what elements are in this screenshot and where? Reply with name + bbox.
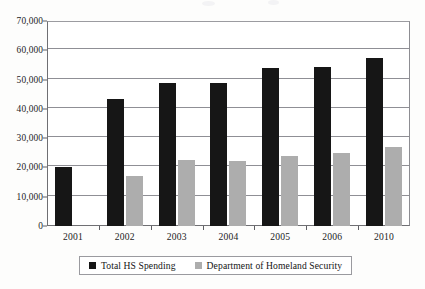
bar-2003-series2 [178, 160, 195, 226]
bar-2006-series1 [314, 67, 331, 226]
legend-swatch-icon-1 [89, 262, 96, 269]
x-tick-mark-5 [358, 226, 359, 230]
chart-figure: 010,00020,00030,00040,00050,00060,00070,… [0, 0, 425, 289]
y-tick-label-40000: 40,000 [0, 104, 43, 114]
y-tick-label-30000: 30,000 [0, 133, 43, 143]
bar-2004-series2 [229, 161, 246, 226]
bars-layer [47, 21, 410, 226]
bar-group-2010 [358, 21, 410, 226]
chart-legend: Total HS SpendingDepartment of Homeland … [79, 256, 352, 275]
y-tick-label-10000: 10,000 [0, 192, 43, 202]
bar-2003-series1 [159, 83, 176, 227]
bar-2010-series2 [385, 147, 402, 226]
bar-2005-series1 [262, 68, 279, 226]
x-tick-mark-1 [151, 226, 152, 230]
bar-group-2001 [47, 21, 99, 226]
bar-2001-series1 [55, 167, 72, 226]
y-tick-label-0: 0 [0, 221, 43, 231]
x-tick-mark-2 [203, 226, 204, 230]
x-tick-mark-4 [306, 226, 307, 230]
legend-entry-2: Department of Homeland Security [195, 260, 343, 271]
legend-swatch-icon-2 [195, 262, 202, 269]
scan-artifact [268, 0, 279, 5]
x-tick-label-2010: 2010 [354, 231, 414, 242]
legend-label-2: Department of Homeland Security [207, 260, 343, 271]
y-tick-label-70000: 70,000 [0, 16, 43, 26]
bar-2002-series2 [126, 176, 143, 226]
y-tick-label-60000: 60,000 [0, 45, 43, 55]
y-tick-label-50000: 50,000 [0, 75, 43, 85]
bar-group-2003 [151, 21, 203, 226]
bar-2005-series2 [281, 156, 298, 226]
bar-group-2005 [254, 21, 306, 226]
legend-label-1: Total HS Spending [101, 260, 176, 271]
y-tick-label-20000: 20,000 [0, 162, 43, 172]
x-tick-mark-3 [254, 226, 255, 230]
bar-2002-series1 [107, 99, 124, 226]
scan-artifact [202, 1, 215, 6]
bar-2006-series2 [333, 153, 350, 226]
bar-2004-series1 [210, 83, 227, 227]
bar-2010-series1 [366, 58, 383, 226]
x-tick-mark-0 [99, 226, 100, 230]
bar-group-2004 [203, 21, 255, 226]
bar-group-2006 [306, 21, 358, 226]
bar-group-2002 [99, 21, 151, 226]
legend-entry-1: Total HS Spending [89, 260, 176, 271]
